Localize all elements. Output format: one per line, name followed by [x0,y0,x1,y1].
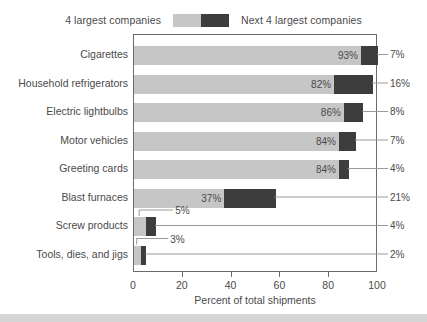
bar-value-label-four-largest: 82% [311,75,331,94]
bar-segment-next-four-largest [224,189,275,208]
category-label: Greeting cards [6,159,133,178]
bar-row: 86% [134,103,378,122]
x-axis-tick-mark [328,272,329,277]
x-axis-tick-label: 40 [225,279,237,291]
bar-value-label-four-largest: 84% [316,160,336,179]
bar-row: 82% [134,75,378,94]
category-label: Blast furnaces [6,188,133,207]
category-label: Tools, dies, and jigs [6,245,133,264]
legend-swatch-four-largest [173,14,201,27]
next-four-value-labels: 7%16%8%7%4%21%4%2% [377,34,427,272]
bar-segment-four-largest [134,160,339,179]
category-label: Cigarettes [6,45,133,64]
category-axis-labels: CigarettesHousehold refrigeratorsElectri… [0,34,133,272]
x-axis-tick-mark [182,272,183,277]
bar-row: 84% [134,132,378,151]
bar-value-label-four-largest: 3% [170,233,184,246]
next-four-value-label: 7% [390,131,404,150]
x-axis-tick-label: 20 [176,279,188,291]
next-four-value-label: 4% [390,216,404,235]
bar-segment-four-largest [134,132,339,151]
bar-segment-four-largest [134,46,361,65]
bar-row [134,246,378,265]
bar-value-label-four-largest: 37% [201,189,221,208]
bar-segment-next-four-largest [344,103,364,122]
bar-segment-next-four-largest [146,217,156,236]
x-axis-tick-mark [231,272,232,277]
legend-label-left: 4 largest companies [65,14,161,26]
next-four-value-label: 7% [390,45,404,64]
bar-segment-four-largest [134,103,344,122]
category-label: Screw products [6,216,133,235]
bar-row: 93% [134,46,378,65]
x-axis-tick-label: 100 [368,279,386,291]
bar-segment-four-largest [134,75,334,94]
bar-value-label-four-largest: 5% [175,204,189,217]
bar-segment-four-largest [134,246,141,265]
bar-row: 84% [134,160,378,179]
next-four-value-label: 16% [390,74,410,93]
bar-segment-next-four-largest [339,160,349,179]
bar-segment-four-largest [134,217,146,236]
category-label: Household refrigerators [6,74,133,93]
next-four-value-label: 2% [390,245,404,264]
bar-segment-next-four-largest [141,246,146,265]
bar-segment-next-four-largest [361,46,378,65]
chart-legend: 4 largest companies Next 4 largest compa… [0,10,427,30]
bottom-band [0,314,427,322]
x-axis-tick-mark [279,272,280,277]
bar-value-label-four-largest: 86% [321,103,341,122]
bar-segment-next-four-largest [334,75,373,94]
next-four-value-label: 4% [390,159,404,178]
next-four-value-label: 21% [390,188,410,207]
x-axis: 020406080100 [133,272,377,294]
legend-swatch-next-four-largest [201,14,229,27]
bar-value-label-four-largest: 93% [338,46,358,65]
category-label: Motor vehicles [6,131,133,150]
bar-segment-next-four-largest [339,132,356,151]
bar-row: 37% [134,189,378,208]
bar-value-label-four-largest: 84% [316,132,336,151]
legend-swatches [173,14,229,27]
x-axis-title: Percent of total shipments [133,294,377,306]
x-axis-tick-label: 0 [130,279,136,291]
x-axis-tick-label: 60 [274,279,286,291]
x-axis-tick-label: 80 [322,279,334,291]
category-label: Electric lightbulbs [6,102,133,121]
legend-label-right: Next 4 largest companies [241,14,362,26]
next-four-value-label: 8% [390,102,404,121]
